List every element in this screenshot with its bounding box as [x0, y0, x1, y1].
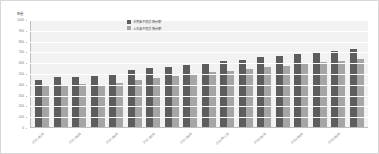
bar[interactable] [91, 76, 98, 127]
x-tick-slot: 2021年5月 [107, 130, 126, 154]
x-tick-label: 2022年3月 [290, 131, 305, 144]
x-tick-slot: 2021年7月 [144, 130, 163, 154]
y-tick-label: 0 [22, 126, 24, 130]
y-tick-mark [26, 31, 28, 32]
x-tick-label: 2021年3月 [68, 131, 83, 144]
gridline [30, 74, 368, 75]
y-tick-label: 700 [19, 50, 24, 54]
y-tick-mark [26, 85, 28, 86]
legend-swatch-icon [127, 26, 131, 30]
y-tick-mark [26, 42, 28, 43]
bar[interactable] [116, 83, 123, 127]
bar[interactable] [35, 80, 42, 127]
gridline [30, 117, 368, 118]
legend-item[interactable]: 上年末不良贷款余额 [127, 26, 161, 31]
y-axis-title: 数量 [17, 11, 23, 16]
legend-label: 上年末不良贷款余额 [133, 26, 161, 31]
x-tick-slot: 2021年1月 [33, 130, 52, 154]
plot-area [30, 20, 368, 128]
bar[interactable] [135, 80, 142, 127]
x-tick-slot: 2022年5月 [329, 130, 348, 154]
y-tick-label: 500 [19, 72, 24, 76]
x-tick-slot: 2022年3月 [292, 130, 311, 154]
gridline [30, 20, 368, 21]
x-tick-slot [348, 130, 367, 154]
x-axis-tick-labels: 2021年1月2021年3月2021年5月2021年7月2021年9月2021年… [30, 130, 368, 154]
gridline [30, 106, 368, 107]
y-tick-label: 400 [19, 83, 24, 87]
y-tick-label: 300 [19, 94, 24, 98]
bar[interactable] [190, 74, 197, 127]
y-tick-mark [26, 128, 28, 129]
gridline [30, 63, 368, 64]
x-tick-slot [89, 130, 108, 154]
x-tick-slot: 2021年3月 [70, 130, 89, 154]
x-tick-slot [237, 130, 256, 154]
y-tick-mark [26, 106, 28, 107]
gridline [30, 52, 368, 53]
gridline [30, 85, 368, 86]
x-axis-line [30, 127, 368, 128]
x-tick-slot [274, 130, 293, 154]
x-tick-slot: 2021年11月 [218, 130, 237, 154]
x-tick-label: 2022年1月 [253, 131, 268, 144]
chart-legend: 本期末不良贷款余额上年末不良贷款余额 [127, 19, 161, 31]
gridline [30, 31, 368, 32]
x-tick-label: 2021年5月 [105, 131, 120, 144]
bar[interactable] [109, 74, 116, 127]
legend-swatch-icon [127, 20, 131, 24]
x-tick-slot: 2022年1月 [255, 130, 274, 154]
y-tick-mark [26, 96, 28, 97]
x-tick-slot [52, 130, 71, 154]
x-tick-label: 2021年9月 [179, 131, 194, 144]
bar[interactable] [128, 70, 135, 127]
y-tick-label: 600 [19, 61, 24, 65]
y-tick-label: 200 [19, 104, 24, 108]
bar[interactable] [246, 69, 253, 127]
x-tick-label: 2022年5月 [327, 131, 342, 144]
x-tick-slot [126, 130, 145, 154]
gridline [30, 96, 368, 97]
bar[interactable] [209, 72, 216, 127]
y-axis-tick-labels: 01002003004005006007008009001000 [1, 20, 27, 128]
x-tick-label: 2021年7月 [142, 131, 157, 144]
bar-chart-container: 数量 01002003004005006007008009001000 2021… [0, 0, 379, 154]
y-tick-label: 800 [19, 40, 24, 44]
y-tick-mark [26, 117, 28, 118]
y-tick-mark [26, 74, 28, 75]
y-tick-label: 900 [19, 29, 24, 33]
x-tick-slot: 2021年9月 [181, 130, 200, 154]
y-tick-mark [26, 63, 28, 64]
y-tick-mark [26, 52, 28, 53]
gridline [30, 42, 368, 43]
bar[interactable] [227, 71, 234, 127]
legend-label: 本期末不良贷款余额 [133, 19, 161, 24]
y-tick-label: 100 [19, 115, 24, 119]
x-tick-label: 2021年1月 [31, 131, 46, 144]
y-tick-mark [26, 20, 28, 21]
y-tick-label: 1000 [17, 18, 24, 22]
legend-item[interactable]: 本期末不良贷款余额 [127, 19, 161, 24]
bar[interactable] [294, 54, 301, 127]
x-tick-slot [163, 130, 182, 154]
x-tick-slot [311, 130, 330, 154]
bar[interactable] [350, 49, 357, 127]
